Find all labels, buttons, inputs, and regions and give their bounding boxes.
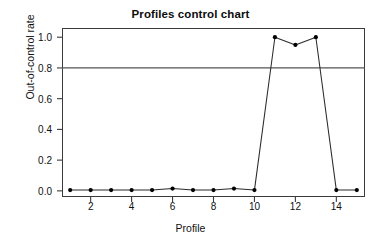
x-tick-label: 6	[161, 201, 185, 212]
y-axis-tick-marks	[57, 37, 62, 191]
data-point	[232, 186, 236, 190]
y-tick-label: 0.2	[22, 155, 52, 166]
y-tick-label: 0.0	[22, 185, 52, 196]
chart-figure: Profiles control chart 0.00.20.40.60.81.…	[0, 0, 381, 246]
data-point-markers	[68, 35, 359, 192]
data-point	[130, 188, 134, 192]
x-axis-tick-labels: 2468101214	[0, 201, 381, 217]
y-axis-label: Out-of-control rate	[24, 14, 36, 99]
x-tick-label: 8	[202, 201, 226, 212]
x-tick-label: 2	[79, 201, 103, 212]
data-point	[150, 188, 154, 192]
data-point	[89, 188, 93, 192]
data-point	[109, 188, 113, 192]
data-point	[293, 43, 297, 47]
data-point	[252, 188, 256, 192]
x-axis-label: Profile	[0, 222, 381, 234]
x-tick-label: 4	[120, 201, 144, 212]
x-tick-label: 12	[283, 201, 307, 212]
data-point	[68, 188, 72, 192]
data-point	[211, 188, 215, 192]
data-point	[191, 188, 195, 192]
data-point	[273, 35, 277, 39]
data-point	[314, 35, 318, 39]
data-point	[355, 188, 359, 192]
data-series-line	[70, 37, 357, 190]
x-tick-label: 10	[242, 201, 266, 212]
y-axis-label-wrap: Out-of-control rate	[21, 0, 39, 147]
x-tick-label: 14	[324, 201, 348, 212]
data-point	[170, 186, 174, 190]
data-point	[334, 188, 338, 192]
